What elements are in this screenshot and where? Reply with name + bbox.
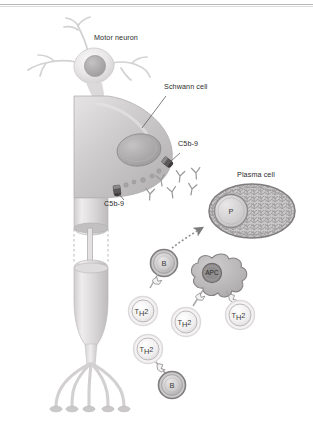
diagram-scene: P B APC (0, 0, 313, 421)
axon-hillock (86, 82, 104, 96)
apc-cell-label: APC (205, 269, 219, 276)
axon-cap-lower (74, 263, 108, 273)
plasma-cell-label: P (229, 207, 234, 216)
th2-cell-3-group: TH2 (226, 301, 255, 330)
terminal-branch-3 (89, 364, 91, 407)
th2-cell-1-group: TH2 (129, 297, 158, 326)
antibody-5 (167, 186, 177, 198)
b-cell-upper-label: B (162, 259, 167, 268)
label-schwann-cell: Schwann cell (164, 82, 208, 91)
th2-cell-2-group: TH2 (172, 308, 201, 337)
b-cell-lower-group: B (159, 372, 186, 399)
b-cell-upper-group: B (151, 250, 178, 277)
plasma-cell-group: P (209, 184, 295, 238)
end-plate-5 (118, 406, 130, 412)
naked-axon-segment (88, 228, 93, 263)
end-plate-group (50, 406, 130, 412)
label-motor-neuron: Motor neuron (94, 33, 138, 42)
label-c5b9-lower: C5b-9 (104, 199, 124, 208)
axon-group (74, 198, 108, 366)
antibody-4 (145, 189, 154, 201)
antibody-3 (191, 168, 200, 180)
end-plate-4 (102, 406, 114, 412)
end-plate-3 (83, 406, 95, 412)
b-cell-lower-label: B (170, 381, 175, 390)
nerve-terminal-group (56, 364, 124, 407)
figure-canvas: P B APC (0, 0, 313, 421)
differentiation-arrow (172, 228, 202, 248)
end-plate-1 (50, 406, 62, 412)
schwann-cell-group (74, 96, 172, 198)
terminal-branch-4 (92, 364, 108, 407)
antibody-2 (175, 171, 185, 183)
antibody-6 (187, 183, 197, 195)
th2-cell-4-group: TH2 (134, 335, 163, 364)
motor-neuron-group (28, 17, 150, 96)
label-plasma-cell: Plasma cell (237, 170, 275, 179)
end-plate-2 (66, 406, 78, 412)
synapse-apc-th2-2 (193, 290, 205, 306)
apc-cell-group: APC (191, 254, 246, 297)
synapse-th2-4-b-lower (155, 361, 166, 374)
label-c5b9-upper: C5b-9 (178, 139, 198, 148)
